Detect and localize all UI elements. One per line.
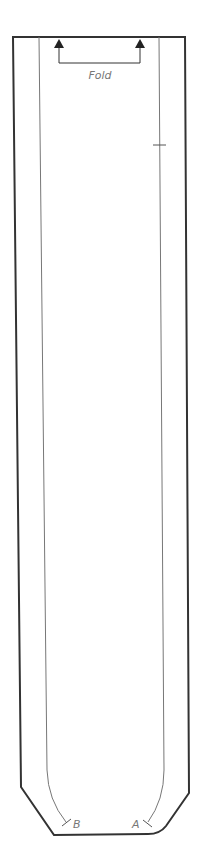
notch-b-tick [62, 819, 71, 826]
arrow-up-icon [54, 39, 64, 48]
pattern-piece: Fold B A [0, 0, 203, 863]
fold-label: Fold [88, 69, 112, 82]
notch-b-label: B [73, 818, 81, 831]
notch-a-tick [143, 820, 152, 827]
seam-line [39, 37, 66, 822]
arrow-up-icon [135, 39, 145, 48]
notch-a-label: A [131, 818, 140, 831]
fold-arrow [54, 39, 145, 63]
cutting-line [13, 37, 189, 835]
seam-line-right [148, 37, 164, 822]
